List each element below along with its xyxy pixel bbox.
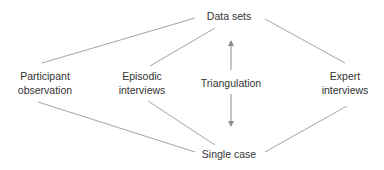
line-datasets-participant xyxy=(42,18,195,63)
participant-observation-line2: observation xyxy=(18,83,72,97)
episodic-interviews-line1: Episodic xyxy=(119,69,166,83)
line-participant-singlecase xyxy=(38,102,195,152)
participant-observation-line1: Participant xyxy=(18,69,72,83)
participant-observation-node: Participant observation xyxy=(18,69,72,97)
data-sets-label: Data sets xyxy=(207,9,251,23)
expert-interviews-node: Expert interviews xyxy=(322,69,369,97)
single-case-node: Single case xyxy=(202,147,256,161)
data-sets-node: Data sets xyxy=(207,9,251,23)
triangulation-label-node: Triangulation xyxy=(201,76,261,90)
line-datasets-expert xyxy=(265,19,345,63)
line-episodic-singlecase xyxy=(148,101,215,145)
expert-interviews-line2: interviews xyxy=(322,83,369,97)
triangulation-label: Triangulation xyxy=(201,76,261,90)
episodic-interviews-line2: interviews xyxy=(119,83,166,97)
single-case-label: Single case xyxy=(202,147,256,161)
line-datasets-episodic xyxy=(150,28,215,66)
expert-interviews-line1: Expert xyxy=(322,69,369,83)
episodic-interviews-node: Episodic interviews xyxy=(119,69,166,97)
line-expert-singlecase xyxy=(265,106,347,152)
